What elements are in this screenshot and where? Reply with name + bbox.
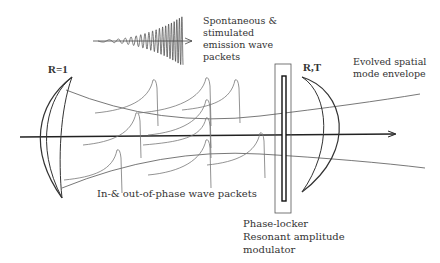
envelope-label-line: mode envelope bbox=[353, 68, 426, 79]
emission-label-line: Spontaneous & bbox=[203, 15, 277, 26]
phase-locker bbox=[275, 64, 291, 213]
envelope-label: Evolved spatial mode envelope bbox=[353, 56, 426, 79]
left-mirror-label: R=1 bbox=[48, 63, 68, 75]
modulator-label-line: Resonant amplitude bbox=[243, 231, 345, 242]
modulator-label-line: modulator bbox=[243, 244, 296, 255]
emission-label-line: packets bbox=[203, 51, 240, 62]
modulator-label: Phase-locker Resonant amplitude modulato… bbox=[243, 218, 345, 255]
wave-packet bbox=[64, 150, 122, 193]
wave-packet bbox=[83, 113, 141, 158]
envelope-label-line: Evolved spatial bbox=[353, 56, 426, 67]
wave-packet bbox=[148, 140, 211, 188]
emission-wavepacket-icon bbox=[93, 17, 192, 65]
modulator-label-line: Phase-locker bbox=[243, 218, 308, 229]
laser-cavity-diagram: Spontaneous & stimulated emission wave p… bbox=[0, 0, 440, 263]
mode-envelope bbox=[62, 90, 425, 188]
emission-label: Spontaneous & stimulated emission wave p… bbox=[203, 15, 277, 62]
right-mirror-label: R,T bbox=[303, 61, 322, 73]
wave-packet bbox=[95, 80, 158, 126]
emission-label-line: emission wave bbox=[203, 39, 273, 50]
diagram-canvas: Spontaneous & stimulated emission wave p… bbox=[0, 0, 440, 263]
wave-packet bbox=[207, 133, 265, 178]
packets-label: In-& out-of-phase wave packets bbox=[97, 188, 257, 199]
emission-label-line: stimulated bbox=[203, 27, 254, 38]
